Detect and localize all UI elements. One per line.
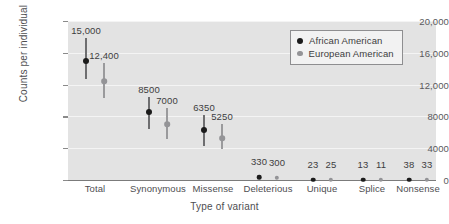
- y-axis-tick: [63, 116, 68, 117]
- data-point-label: 25: [326, 159, 337, 170]
- legend-item-european-american: European American: [297, 47, 394, 60]
- chart-figure: Counts per individual Type of variant Af…: [0, 0, 449, 224]
- legend-label: African American: [309, 35, 382, 46]
- y-axis-tick-label: 16,000: [393, 47, 449, 58]
- x-axis-tick-label: Missense: [193, 183, 234, 194]
- data-point-label: 8500: [138, 84, 160, 95]
- data-point: [257, 175, 262, 180]
- gridline: [68, 21, 436, 22]
- legend-dot-icon: [297, 38, 303, 44]
- data-point-label: 15,000: [71, 25, 101, 36]
- data-point-label: 5250: [211, 111, 233, 122]
- data-point-label: 33: [422, 159, 433, 170]
- legend-label: European American: [309, 48, 394, 59]
- data-point: [164, 122, 170, 128]
- x-axis-tick-label: Nonsense: [396, 183, 440, 194]
- y-axis-tick: [63, 180, 68, 181]
- data-point: [407, 177, 412, 182]
- y-axis-tick-label: 4000: [393, 143, 449, 154]
- data-point: [219, 135, 225, 141]
- y-axis-tick-label: 8000: [393, 111, 449, 122]
- data-point-label: 13: [358, 159, 369, 170]
- legend-item-african-american: African American: [297, 34, 394, 47]
- y-axis-tick: [63, 85, 68, 86]
- data-point-label: 23: [308, 159, 319, 170]
- data-point: [201, 127, 207, 133]
- x-axis-tick-label: Splice: [359, 183, 385, 194]
- x-axis-title: Type of variant: [0, 201, 449, 212]
- x-axis-tick-label: Deleterious: [243, 183, 292, 194]
- gridline: [68, 148, 436, 149]
- data-point: [146, 109, 152, 115]
- data-point-label: 330: [251, 156, 267, 167]
- data-point: [379, 178, 383, 182]
- y-axis-tick: [63, 21, 68, 22]
- y-axis-tick: [63, 148, 68, 149]
- y-axis-tick-label: 20,000: [393, 16, 449, 27]
- gridline: [68, 116, 436, 117]
- data-point-label: 300: [269, 157, 285, 168]
- legend: African American European American: [290, 30, 403, 65]
- data-point-label: 7000: [156, 95, 178, 106]
- y-axis-tick: [63, 53, 68, 54]
- data-point-label: 11: [376, 159, 386, 170]
- y-axis-title: Counts per individual: [18, 0, 29, 124]
- data-point-label: 12,400: [89, 50, 119, 61]
- x-axis-tick-label: Synonymous: [130, 183, 186, 194]
- y-axis-tick-label: 12,000: [393, 79, 449, 90]
- data-point: [101, 79, 107, 85]
- data-point-label: 38: [404, 159, 415, 170]
- legend-dot-icon: [297, 51, 303, 57]
- data-point: [361, 178, 366, 183]
- x-axis-tick-label: Unique: [307, 183, 338, 194]
- data-point: [83, 58, 89, 64]
- data-point: [311, 178, 316, 183]
- gridline: [68, 85, 436, 86]
- x-axis-tick-label: Total: [85, 183, 106, 194]
